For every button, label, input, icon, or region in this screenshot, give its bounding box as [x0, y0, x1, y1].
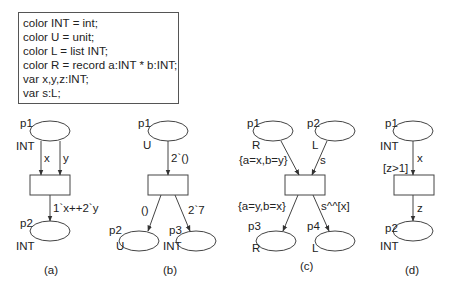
panel-d: [393, 121, 434, 241]
label-b-arc-p3: 2`7: [188, 204, 205, 216]
caption-d: (d): [405, 264, 419, 276]
label-c-p2-type: L: [312, 139, 319, 151]
label-c-arc-p4: s^^[x]: [321, 200, 350, 212]
label-a-p1: p1: [20, 117, 33, 129]
label-b-p1: p1: [138, 117, 151, 129]
petri-net-diagrams: p1 INT x y 1`x++2`y p2 INT (a) p1 U 2`()…: [0, 0, 449, 285]
label-d-arc-in: x: [417, 152, 423, 164]
panel-c: [253, 121, 355, 251]
label-c-p3: p3: [248, 220, 261, 232]
label-c-p1-type: R: [252, 139, 260, 151]
label-c-p2: p2: [307, 117, 320, 129]
place-c-p4: [315, 231, 355, 251]
label-b-p3: p3: [169, 224, 182, 236]
label-c-arc-p3: {a=y,b=x}: [238, 200, 286, 212]
label-c-p4-type: L: [312, 242, 319, 254]
label-d-p2-type: INT: [380, 240, 399, 252]
label-a-p2: p2: [20, 217, 33, 229]
transition-a: [30, 175, 70, 195]
label-b-arc-p2: (): [141, 204, 149, 216]
place-c-p3: [256, 231, 296, 251]
arc-b-out-p2: [148, 195, 161, 231]
label-a-p2-type: INT: [16, 240, 35, 252]
place-c-p2: [315, 121, 355, 141]
label-b-p2-type: U: [116, 240, 124, 252]
label-c-p4: p4: [307, 220, 320, 232]
caption-c: (c): [300, 260, 314, 272]
place-d-p1: [393, 121, 433, 141]
label-a-arc-x: x: [44, 152, 50, 164]
place-a-p2: [30, 221, 70, 241]
label-d-p1-type: INT: [380, 140, 399, 152]
place-b-p2: [119, 231, 159, 251]
label-a-p1-type: INT: [16, 140, 35, 152]
label-d-p1: p1: [385, 117, 398, 129]
label-b-p2: p2: [109, 224, 122, 236]
place-d-p2: [393, 221, 433, 241]
place-b-p3: [176, 231, 216, 251]
label-a-arc-out: 1`x++2`y: [53, 202, 99, 214]
label-b-arc-in: 2`(): [171, 152, 189, 164]
label-c-p1: p1: [247, 117, 260, 129]
transition-d: [394, 175, 434, 195]
label-a-arc-y: y: [63, 152, 69, 164]
transition-c: [285, 175, 325, 195]
caption-a: (a): [44, 264, 58, 276]
panel-a: [30, 121, 70, 241]
place-b-p1: [148, 121, 188, 141]
label-c-arc-p2: s: [320, 154, 326, 166]
label-b-p1-type: U: [143, 139, 151, 151]
place-a-p1: [30, 121, 70, 141]
transition-b: [148, 175, 188, 195]
label-d-guard: [z>1]: [383, 162, 408, 174]
label-c-arc-p1: {a=x,b=y}: [239, 154, 288, 166]
label-c-p3-type: R: [252, 242, 260, 254]
panel-b: [119, 121, 216, 251]
caption-b: (b): [163, 264, 177, 276]
label-b-p3-type: INT: [163, 240, 182, 252]
label-d-p2: p2: [385, 222, 398, 234]
label-d-arc-out: z: [417, 202, 423, 214]
